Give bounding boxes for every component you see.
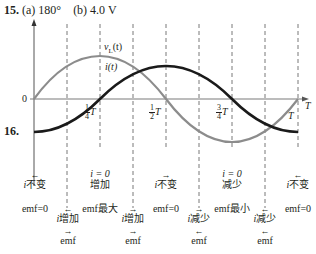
left-arrow-icon: ← (57, 205, 80, 213)
annotation-col0-emf: emf=0 (22, 203, 48, 214)
right-arrow-icon: → (122, 227, 145, 235)
tick-three-quarter-T: 34T (216, 104, 228, 121)
x-axis-label: T (305, 100, 311, 111)
annotation-col2: i = 0增加 (90, 168, 110, 190)
annotation-col4: → i不变 (155, 171, 178, 190)
left-arrow-icon: ← (287, 171, 310, 179)
annotation-col5: → i减少 ← emf (188, 205, 211, 246)
annotation-col6-emf: emf最小 (214, 203, 250, 214)
right-arrow-icon: → (155, 171, 178, 179)
tick-quarter-T: 14T (84, 104, 96, 121)
annotation-col2-emf: emf最大 (82, 203, 118, 214)
annotation-col8-emf: emf=0 (285, 203, 311, 214)
y-axis-arrow-icon (32, 19, 37, 26)
annotation-col4-emf: emf=0 (153, 203, 179, 214)
right-arrow-icon: → (188, 205, 211, 213)
annotation-col1: ← i增加 → emf (57, 205, 80, 246)
tick-T: T (288, 110, 294, 121)
left-arrow-icon: ← (24, 171, 47, 179)
right-arrow-icon: → (57, 227, 80, 235)
problem-16-number: 16. (4, 124, 19, 139)
right-arrow-icon: → (122, 205, 145, 213)
annotation-col0: ← i不变 (24, 171, 47, 190)
left-arrow-icon: ← (254, 205, 277, 213)
tick-half-T: 12T (149, 104, 161, 121)
annotation-col3: → i增加 → emf (122, 205, 145, 246)
annotation-col6: i = 0减少 (222, 168, 242, 190)
annotation-col8: ← i不变 (287, 171, 310, 190)
annotation-col7: ← i减少 ← emf (254, 205, 277, 246)
current-curve-label: i(t) (105, 61, 117, 72)
left-arrow-icon: ← (254, 227, 277, 235)
left-arrow-icon: ← (188, 227, 211, 235)
origin-label: 0 (22, 93, 27, 104)
voltage-curve-label: vL(t) (104, 41, 122, 55)
